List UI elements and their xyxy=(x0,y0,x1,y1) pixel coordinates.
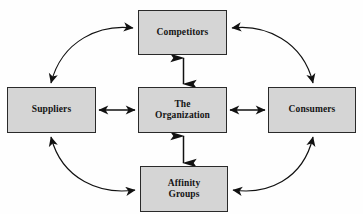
connector-affinity-consumers xyxy=(233,137,313,191)
node-competitors[interactable]: Competitors xyxy=(138,10,227,55)
node-suppliers-label: Suppliers xyxy=(32,104,71,116)
node-affinity-groups-label: Affinity Groups xyxy=(168,178,200,201)
node-affinity-groups[interactable]: Affinity Groups xyxy=(140,166,228,212)
connector-suppliers-affinity xyxy=(51,137,135,191)
stakeholder-diagram: Competitors Suppliers The Organization C… xyxy=(0,0,363,214)
connector-competitors-consumers xyxy=(232,27,313,83)
node-competitors-label: Competitors xyxy=(157,27,209,39)
connector-suppliers-competitors xyxy=(51,27,133,83)
node-suppliers[interactable]: Suppliers xyxy=(7,87,96,133)
node-consumers-label: Consumers xyxy=(289,104,336,116)
node-the-organization-label: The Organization xyxy=(155,99,210,122)
node-consumers[interactable]: Consumers xyxy=(268,87,356,133)
node-the-organization[interactable]: The Organization xyxy=(138,87,227,133)
